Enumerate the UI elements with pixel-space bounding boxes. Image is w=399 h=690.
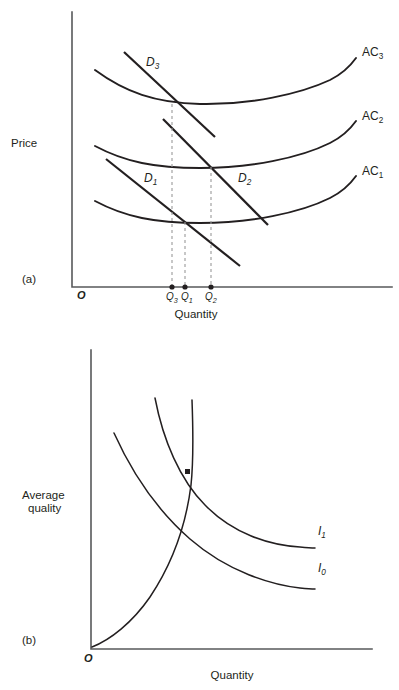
curve-i1 (155, 398, 315, 548)
panel-b-origin-label: O (84, 652, 93, 664)
curve-ac3 (95, 58, 356, 104)
panel-a-chart: AC3 AC2 AC1 D3 D1 D2 Q3 Q1 Q2 Price Quan… (0, 0, 399, 345)
label-q1: Q1 (181, 291, 193, 305)
label-ac3: AC3 (362, 45, 384, 61)
panel-b-y-axis-label-line1: Average (22, 489, 65, 501)
panel-b-y-axis-label-line2: quality (28, 502, 61, 514)
label-ac2: AC2 (362, 109, 384, 125)
label-i1: I1 (318, 524, 326, 540)
label-d2: D2 (238, 171, 252, 187)
label-q3: Q3 (166, 291, 178, 305)
panel-b-axes (91, 350, 372, 649)
axis-dot-q1 (182, 284, 187, 289)
economics-figure: AC3 AC2 AC1 D3 D1 D2 Q3 Q1 Q2 Price Quan… (0, 0, 399, 690)
panel-a-y-axis-label: Price (11, 137, 37, 149)
label-d1: D1 (144, 171, 157, 187)
label-i0: I0 (318, 561, 326, 577)
axis-dot-q2 (208, 284, 213, 289)
curve-i0 (114, 433, 315, 589)
panel-a-origin-label: O (77, 289, 86, 301)
tangency-point-marker (185, 469, 190, 474)
curve-ac2 (95, 121, 356, 168)
panel-a-x-axis-label: Quantity (175, 308, 218, 320)
panel-a-axes (72, 12, 392, 287)
axis-dot-q3 (169, 284, 174, 289)
panel-b-chart: I1 I0 Average quality Quantity O (b) (0, 345, 399, 690)
figure-caption-cropped (0, 679, 399, 690)
label-q2: Q2 (205, 291, 217, 305)
panel-b-tag: (b) (22, 634, 36, 646)
panel-a-tag: (a) (22, 273, 36, 285)
line-d2 (163, 119, 268, 225)
label-ac1: AC1 (362, 164, 384, 180)
curve-offer (92, 400, 193, 647)
label-d3: D3 (146, 55, 160, 71)
